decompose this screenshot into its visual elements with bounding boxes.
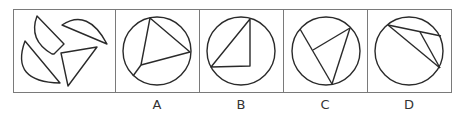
option-a-label[interactable]: A <box>115 97 199 112</box>
option-c-figure <box>292 17 360 85</box>
option-b-label[interactable]: B <box>199 97 283 112</box>
triangle-piece <box>61 47 97 86</box>
figure-reasoning-puzzle: A B C D <box>0 0 463 117</box>
option-d-figure <box>375 17 443 85</box>
question-panel-pieces <box>22 16 107 86</box>
option-a-figure <box>123 17 191 85</box>
option-b-figure <box>207 17 275 85</box>
segment-piece-left <box>22 41 60 83</box>
option-c-label[interactable]: C <box>283 97 367 112</box>
option-d-label[interactable]: D <box>367 97 451 112</box>
segment-piece-top-right <box>62 20 107 44</box>
panel-borders <box>14 10 452 93</box>
arc-piece-top-left <box>35 16 64 54</box>
